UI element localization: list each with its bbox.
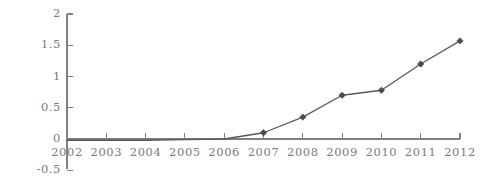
x-axis-label: 2009 (326, 147, 358, 159)
x-axis-label: 2003 (90, 147, 122, 159)
x-axis-label: 2007 (248, 147, 280, 159)
y-axis-label: 2 (53, 8, 61, 20)
x-axis-label: 2012 (444, 147, 476, 159)
x-axis-label: 2011 (405, 147, 437, 159)
x-axis-label: 2006 (208, 147, 240, 159)
y-axis-label: 0 (53, 133, 61, 145)
chart-plot-area (0, 0, 488, 196)
x-axis-label: 2002 (51, 147, 83, 159)
chart-markers (260, 38, 463, 136)
x-axis-label: 2005 (169, 147, 201, 159)
x-axis-label: 2010 (366, 147, 398, 159)
y-axis-label: 0.5 (41, 102, 61, 114)
x-axis-label: 2004 (130, 147, 162, 159)
y-axis-label: -0.5 (36, 165, 61, 177)
y-axis-label: 1.5 (41, 40, 61, 52)
chart-series (67, 41, 460, 140)
line-chart: 21.510.50-0.5 20022003200420052006200720… (0, 0, 488, 196)
x-axis-label: 2008 (287, 147, 319, 159)
y-axis-label: 1 (53, 71, 61, 83)
